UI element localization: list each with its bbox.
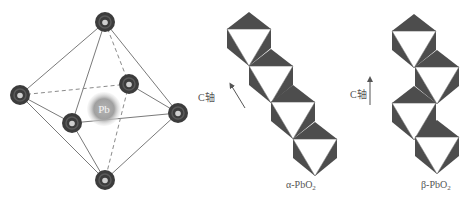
atom-highlight	[102, 20, 108, 26]
octahedron-edge-inner-left-right	[72, 113, 178, 123]
oxygen-atom-inner-left	[62, 113, 82, 133]
pbo2-structure-figure: Pb C轴 α-PbO2 C轴 β-PbO2	[0, 0, 473, 199]
beta-c-axis-label: C轴	[350, 88, 367, 100]
octahedron-edge-left-inner-right	[20, 84, 129, 95]
beta-label-main: β-PbO	[421, 179, 447, 190]
atom-highlight	[126, 82, 132, 88]
atom-highlight	[175, 111, 181, 117]
alpha-pbo2-chain	[227, 12, 337, 176]
octahedron-edge-top-left	[20, 22, 105, 95]
alpha-label-sub: 2	[312, 184, 316, 192]
polyhedron-top-face	[227, 12, 271, 29]
octahedron-edge-right-bottom	[105, 113, 178, 180]
alpha-c-axis-label: C轴	[198, 91, 215, 103]
pb-label: Pb	[98, 103, 110, 115]
polyhedron-top-face	[392, 14, 436, 31]
octahedron-diagram: Pb	[10, 12, 188, 190]
alpha-label-main: α-PbO	[286, 179, 312, 190]
atom-highlight	[69, 121, 75, 127]
oxygen-atom-top	[95, 12, 115, 32]
oxygen-atom-inner-right	[119, 74, 139, 94]
alpha-pbo2-label: α-PbO2	[286, 179, 316, 192]
pb-atom: Pb	[87, 92, 121, 126]
beta-pbo2-label: β-PbO2	[421, 179, 451, 192]
alpha-c-axis-arrow	[231, 85, 245, 108]
oxygen-atom-right	[168, 103, 188, 123]
beta-label-sub: 2	[447, 184, 451, 192]
atom-highlight	[102, 178, 108, 184]
oxygen-atom-left	[10, 85, 30, 105]
atom-highlight	[17, 93, 23, 99]
oxygen-atom-bottom	[95, 170, 115, 190]
beta-pbo2-chain	[392, 14, 459, 174]
